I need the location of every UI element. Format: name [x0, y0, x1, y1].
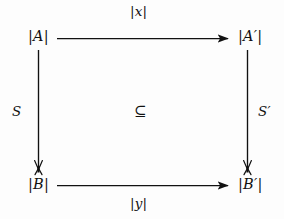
node-label-top-right: |A′| — [238, 29, 262, 44]
arrow-left — [35, 50, 43, 175]
edge-label-top: |x| — [130, 5, 147, 19]
relation-symbol-subset-or-equal: ⊆ — [134, 104, 147, 119]
node-label-bottom-left: |B| — [28, 177, 49, 192]
edge-label-left: S — [12, 105, 21, 119]
node-label-top-left: |A| — [28, 29, 49, 44]
edge-label-bottom: |y| — [130, 197, 147, 211]
edge-label-right: S′ — [258, 105, 271, 119]
node-label-bottom-right: |B′| — [238, 177, 263, 192]
commutative-diagram-figure: |A| |A′| |B| |B′| |x| |y| S S′ ⊆ — [0, 0, 284, 219]
arrow-right-side — [244, 50, 252, 175]
